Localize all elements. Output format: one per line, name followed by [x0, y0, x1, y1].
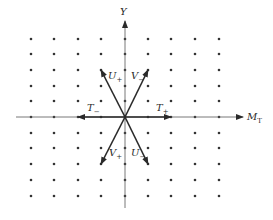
- weight-diagram: Y MT T+T−U+V−V+U−: [0, 0, 273, 220]
- lattice-dot: [30, 195, 33, 198]
- lattice-dot: [170, 53, 173, 56]
- lattice-dot: [100, 132, 103, 135]
- lattice-dot: [147, 179, 150, 182]
- y-axis-label: Y: [120, 7, 127, 17]
- x-axis-label: MT: [247, 112, 262, 125]
- lattice-dot: [77, 195, 80, 198]
- operator-label-u-minus: U−: [131, 148, 145, 161]
- lattice-dot: [53, 147, 56, 150]
- lattice-dot: [53, 179, 56, 182]
- lattice-dot: [77, 163, 80, 166]
- operator-label-u-plus: U+: [108, 71, 122, 84]
- lattice-dot: [53, 195, 56, 198]
- lattice-dot: [194, 147, 197, 150]
- lattice-dot: [77, 85, 80, 88]
- lattice-dot: [30, 53, 33, 56]
- lattice-dot: [218, 147, 221, 150]
- lattice-dot: [194, 53, 197, 56]
- lattice-dot: [218, 132, 221, 135]
- operator-label-t-plus: T+: [156, 103, 169, 116]
- lattice-dot: [100, 100, 103, 103]
- lattice-dot: [170, 195, 173, 198]
- lattice-dot: [30, 38, 33, 41]
- lattice-dot: [53, 132, 56, 135]
- lattice-dot: [77, 147, 80, 150]
- lattice-dot: [218, 195, 221, 198]
- lattice-dot: [218, 69, 221, 72]
- lattice-dot: [170, 132, 173, 135]
- lattice-dot: [100, 85, 103, 88]
- lattice-dot: [77, 53, 80, 56]
- lattice-dot: [147, 100, 150, 103]
- lattice-dot: [30, 69, 33, 72]
- lattice-dot: [170, 147, 173, 150]
- lattice-dot: [194, 69, 197, 72]
- lattice-dot: [218, 179, 221, 182]
- lattice-dot: [77, 69, 80, 72]
- lattice-dot: [170, 100, 173, 103]
- lattice-dot: [30, 100, 33, 103]
- lattice-dot: [218, 53, 221, 56]
- lattice-dot: [100, 179, 103, 182]
- lattice-dot: [30, 132, 33, 135]
- lattice-dot: [170, 85, 173, 88]
- lattice-dot: [218, 163, 221, 166]
- lattice-dot: [147, 147, 150, 150]
- lattice-dot: [218, 38, 221, 41]
- lattice-dot: [30, 163, 33, 166]
- lattice-dot: [53, 53, 56, 56]
- lattice-dot: [170, 69, 173, 72]
- operator-label-t-minus: T−: [87, 103, 100, 116]
- lattice-dot: [53, 85, 56, 88]
- lattice-dot: [100, 147, 103, 150]
- lattice-dot: [194, 163, 197, 166]
- lattice-dot: [194, 100, 197, 103]
- lattice-dot: [30, 179, 33, 182]
- operator-label-v-plus: V+: [109, 148, 122, 161]
- lattice-dot: [53, 163, 56, 166]
- operator-label-v-minus: V−: [131, 71, 144, 84]
- lattice-dot: [194, 132, 197, 135]
- lattice-dot: [147, 132, 150, 135]
- lattice-dot: [147, 53, 150, 56]
- diagram-canvas: [0, 0, 273, 220]
- lattice-dot: [147, 85, 150, 88]
- lattice-dot: [194, 195, 197, 198]
- lattice-dot: [218, 100, 221, 103]
- lattice-dot: [147, 38, 150, 41]
- lattice-dot: [100, 195, 103, 198]
- lattice-dot: [194, 85, 197, 88]
- lattice-dot: [53, 69, 56, 72]
- lattice-dot: [77, 100, 80, 103]
- lattice-dot: [147, 195, 150, 198]
- lattice-dot: [170, 38, 173, 41]
- lattice-dot: [100, 38, 103, 41]
- lattice-dot: [77, 132, 80, 135]
- lattice-dot: [218, 85, 221, 88]
- lattice-dot: [53, 38, 56, 41]
- lattice-dot: [194, 38, 197, 41]
- lattice-dot: [77, 179, 80, 182]
- lattice-dot: [170, 163, 173, 166]
- lattice-dot: [100, 53, 103, 56]
- operator-arrows: [78, 70, 171, 164]
- lattice-dot: [77, 38, 80, 41]
- lattice-dot: [30, 147, 33, 150]
- lattice-dot: [30, 85, 33, 88]
- lattice-dot: [53, 100, 56, 103]
- lattice-dot: [194, 179, 197, 182]
- lattice-dot: [170, 179, 173, 182]
